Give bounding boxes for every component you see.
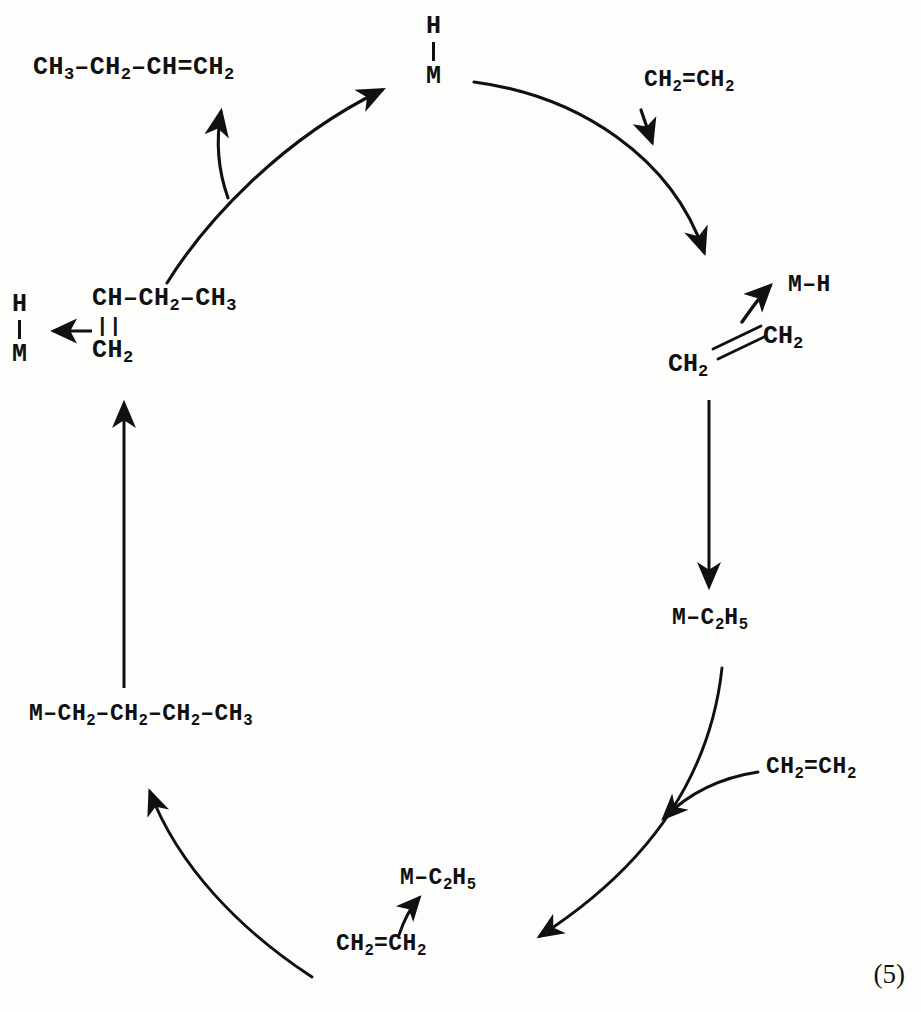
arrow-ethylene-feed-top <box>641 110 652 142</box>
pi-ch2-upper-text: CH <box>763 322 793 351</box>
metal-butyl-seg-1: M–CH <box>29 701 86 727</box>
ethylene-top-seg-2: =CH <box>682 67 725 93</box>
species-ethylene-bottom-center: CH2=CH2 <box>336 932 426 959</box>
pi-ch2-upper-sub: 2 <box>793 334 803 353</box>
ethylene-br-sub-2: 2 <box>847 765 856 783</box>
fragment-bottom-row: CH2 <box>92 338 236 366</box>
metal-ethyl-b-seg-2: H <box>452 865 466 891</box>
arrow-butene-release <box>218 112 228 198</box>
metal-ethyl-b-sub-1: 2 <box>443 876 452 894</box>
ethylene-br-seg-2: =CH <box>804 754 847 780</box>
metal-ethyl-r-seg-2: H <box>724 605 738 631</box>
species-metal-hydride-left: H M <box>12 292 27 367</box>
arc-ethyl-to-butyl <box>540 668 722 936</box>
arc-butyl-to-hydride <box>167 90 382 283</box>
pi-ch2-lower-text: CH <box>668 350 698 379</box>
ethylene-top-seg-1: CH <box>644 67 673 93</box>
ethylene-bc-seg-2: =CH <box>374 931 417 957</box>
species-metal-hydride-top: H M <box>426 14 441 89</box>
pi-complex-ch2-lower: CH2 <box>668 350 708 381</box>
species-metal-ethyl-bottom: M–C2H5 <box>400 866 476 893</box>
species-metal-butyl: M–CH2–CH2–CH2–CH3 <box>29 702 253 729</box>
bond-line-vertical <box>432 42 435 61</box>
equation-number: (5) <box>874 959 905 990</box>
metal-butyl-sub-3: 2 <box>191 712 200 730</box>
butene-sub-1: 3 <box>64 65 74 84</box>
cycle-arrows-layer <box>0 0 921 1012</box>
arrow-ethylene-to-methyl <box>399 898 419 935</box>
metal-ethyl-r-sub-1: 2 <box>715 616 724 634</box>
pi-complex-ch2-upper: CH2 <box>763 322 803 353</box>
ethylene-bc-sub-2: 2 <box>417 942 426 960</box>
metal-butyl-seg-2: –CH <box>96 701 139 727</box>
metal-m-label: M <box>426 64 441 89</box>
hydride-h-label: H <box>426 14 441 39</box>
metal-m-label-left: M <box>12 342 27 367</box>
butene-seg-2: –CH <box>74 53 121 82</box>
butene-seg-1: CH <box>33 53 64 82</box>
species-beta-elimination-fragment: CH–CH2–CH3 || CH2 <box>92 286 236 367</box>
species-metal-hydride-released: M–H <box>788 273 831 297</box>
reaction-scheme-figure: H M CH3–CH2–CH=CH2 CH2=CH2 M–H CH2 CH2 M… <box>0 0 921 1012</box>
arc-hydride-to-complex <box>474 82 704 252</box>
fragment-sub-1: 2 <box>170 296 180 315</box>
butene-sub-3: 2 <box>224 65 234 84</box>
species-butene: CH3–CH2–CH=CH2 <box>33 55 234 84</box>
ethylene-bc-sub-1: 2 <box>365 942 374 960</box>
metal-butyl-sub-1: 2 <box>86 712 95 730</box>
ethylene-br-sub-1: 2 <box>795 765 804 783</box>
species-ethylene-bottom-right: CH2=CH2 <box>766 755 856 782</box>
butene-sub-2: 2 <box>121 65 131 84</box>
arrow-mh-release <box>742 286 770 322</box>
pi-ch2-lower-sub: 2 <box>698 362 708 381</box>
metal-ethyl-b-sub-2: 5 <box>467 876 476 894</box>
hydride-h-label-left: H <box>12 292 27 317</box>
species-pi-complex: CH2 CH2 <box>668 322 838 384</box>
fragment-seg-2: –CH <box>180 284 227 313</box>
ethylene-br-seg-1: CH <box>766 754 795 780</box>
arc-bottom-to-butyl <box>150 792 312 977</box>
fragment-double-bond: || <box>96 316 236 337</box>
fragment-seg-1: CH–CH <box>92 284 170 313</box>
butene-seg-3: –CH=CH <box>131 53 224 82</box>
fragment-top-row: CH–CH2–CH3 <box>92 286 236 314</box>
metal-butyl-seg-4: –CH <box>200 701 243 727</box>
metal-ethyl-r-seg-1: M–C <box>672 605 715 631</box>
species-metal-ethyl-right: M–C2H5 <box>672 606 748 633</box>
metal-butyl-sub-2: 2 <box>139 712 148 730</box>
species-ethylene-top-right: CH2=CH2 <box>644 68 734 95</box>
fragment-sub-2: 3 <box>226 296 236 315</box>
ethylene-bc-seg-1: CH <box>336 931 365 957</box>
ethylene-top-sub-2: 2 <box>725 78 734 96</box>
metal-butyl-sub-4: 3 <box>243 712 252 730</box>
metal-ethyl-b-seg-1: M–C <box>400 865 443 891</box>
arrow-ethylene-feed-bottom <box>664 772 758 818</box>
metal-ethyl-r-sub-2: 5 <box>739 616 748 634</box>
fragment-seg-3: CH <box>92 336 123 365</box>
ethylene-top-sub-1: 2 <box>673 78 682 96</box>
bond-line-vertical-left <box>18 320 21 339</box>
metal-butyl-seg-3: –CH <box>148 701 191 727</box>
fragment-sub-3: 2 <box>123 349 133 368</box>
